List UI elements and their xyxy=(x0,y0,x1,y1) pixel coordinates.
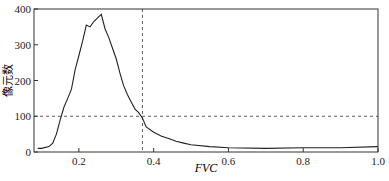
x-tick-label: 1.0 xyxy=(371,155,385,167)
y-tick-label: 200 xyxy=(15,75,32,87)
x-tick-label: 0.6 xyxy=(222,155,236,167)
chart: 0100200300400 0.20.40.60.81.0 FVC 像元数 xyxy=(0,0,389,181)
y-tick-label: 0 xyxy=(26,146,32,158)
x-axis: 0.20.40.60.81.0 xyxy=(72,148,385,167)
y-axis-label: 像元数 xyxy=(2,64,14,97)
y-tick-label: 300 xyxy=(15,39,32,51)
x-tick-label: 0.4 xyxy=(147,155,161,167)
y-tick-label: 400 xyxy=(15,3,32,15)
x-axis-label: FVC xyxy=(194,161,219,175)
histogram-curve xyxy=(38,14,378,148)
x-tick-label: 0.2 xyxy=(72,155,86,167)
y-tick-label: 100 xyxy=(15,110,32,122)
x-tick-label: 0.8 xyxy=(296,155,310,167)
